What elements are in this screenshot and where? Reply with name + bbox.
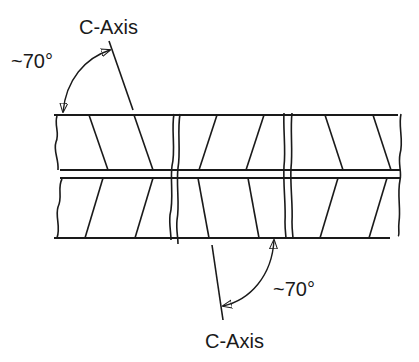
top-angle-label: ~70° (11, 51, 53, 71)
bottom-angle-arc (223, 240, 274, 306)
top-c-axis-label: C-Axis (79, 17, 138, 37)
top-angle-arc (63, 50, 110, 112)
left-edge-upper (55, 116, 58, 170)
break-lines-2 (284, 113, 293, 239)
crystal-band-diagram (0, 0, 419, 362)
bottom-c-axis-label: C-Axis (205, 331, 264, 351)
band-boundaries (54, 115, 400, 238)
upper-band-lattice (89, 115, 391, 170)
bottom-c-axis-line (212, 245, 223, 320)
lower-band-lattice (85, 178, 387, 238)
right-break-edge (398, 114, 401, 236)
left-edge-lower (57, 179, 62, 238)
bottom-angle-label: ~70° (273, 279, 315, 299)
top-c-axis-line (109, 41, 133, 110)
